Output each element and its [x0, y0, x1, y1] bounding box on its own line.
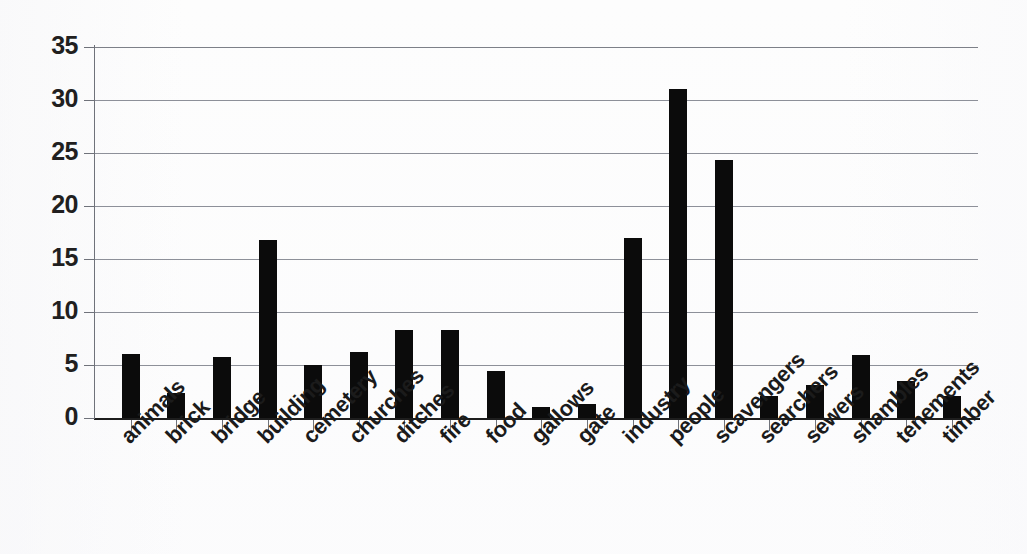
gridline [94, 153, 978, 154]
gridline [94, 312, 978, 313]
y-axis-tick [84, 418, 95, 419]
y-axis-tick [84, 153, 95, 154]
y-axis-tick [84, 100, 95, 101]
bar [715, 160, 733, 418]
gridline [94, 259, 978, 260]
y-axis-tick [84, 259, 95, 260]
y-axis-tick-label: 15 [32, 245, 78, 270]
y-axis-tick-label: 20 [32, 192, 78, 217]
y-axis-tick-label: 0 [32, 404, 78, 429]
bar [624, 238, 642, 418]
bar-chart: 05101520253035 animalsbrickbridgebuildin… [0, 0, 1027, 554]
y-axis-line [94, 45, 95, 420]
y-axis-tick-label: 35 [32, 33, 78, 58]
y-axis-tick-labels: 05101520253035 [20, 0, 78, 554]
gridline [94, 47, 978, 48]
y-axis-tick [84, 312, 95, 313]
bar [259, 240, 277, 418]
y-axis-tick-label: 25 [32, 139, 78, 164]
y-axis-tick-label: 5 [32, 351, 78, 376]
y-axis-tick-label: 30 [32, 86, 78, 111]
gridline [94, 206, 978, 207]
y-axis-tick [84, 47, 95, 48]
y-axis-tick [84, 206, 95, 207]
y-axis-tick-label: 10 [32, 298, 78, 323]
plot-area [94, 47, 978, 418]
gridline [94, 100, 978, 101]
bar [669, 89, 687, 418]
y-axis-tick [84, 365, 95, 366]
